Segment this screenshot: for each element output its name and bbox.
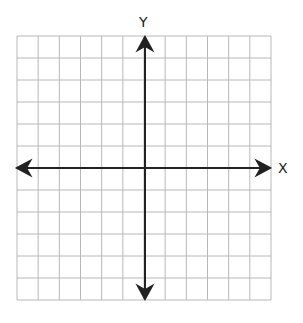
coordinate-grid: [0, 0, 303, 323]
x-axis-label: X: [278, 160, 288, 176]
y-axis-label: Y: [139, 14, 148, 30]
